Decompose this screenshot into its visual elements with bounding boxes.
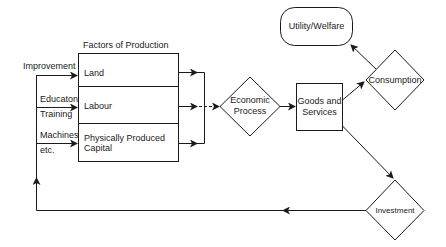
consumption-label: Consumption <box>364 75 426 86</box>
arrow-to-consumption <box>343 82 365 100</box>
utility-welfare-label: Utility/Welfare <box>280 21 353 32</box>
input-etc: etc. <box>40 145 55 156</box>
factors-title: Factors of Production <box>83 40 169 51</box>
economic-process-line2: Process <box>222 106 278 117</box>
input-improvement: Improvement <box>23 61 76 72</box>
arrow-to-utility <box>351 45 376 69</box>
factor-labour: Labour <box>84 101 112 112</box>
input-training: Training <box>40 109 72 120</box>
factor-land: Land <box>84 68 104 79</box>
investment-label: Investment <box>364 205 426 216</box>
economic-process-line1: Economic <box>222 95 278 106</box>
input-education: Educaton <box>40 94 78 105</box>
factor-capital-line2: Capital <box>84 143 112 154</box>
arrow-to-investment <box>343 126 394 178</box>
goods-services-line1: Goods and <box>296 96 343 107</box>
goods-services-line2: Services <box>296 107 343 118</box>
input-machines: Machines <box>40 130 79 141</box>
